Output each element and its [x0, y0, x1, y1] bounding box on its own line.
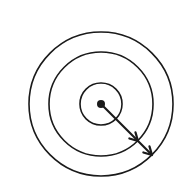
diagram-canvas	[0, 0, 174, 190]
radial-arrow	[101, 104, 152, 155]
center-dot	[97, 100, 105, 108]
arrow-shaft	[101, 104, 152, 155]
concentric-circles-diagram	[0, 0, 174, 190]
